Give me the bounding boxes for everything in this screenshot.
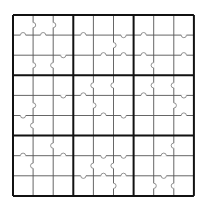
border-mark-icon xyxy=(121,53,126,56)
border-mark-icon xyxy=(114,43,117,48)
cell-r8c9[interactable] xyxy=(174,156,194,176)
border-mark-icon xyxy=(154,183,157,188)
border-mark-icon xyxy=(171,143,174,148)
cell-r4c9[interactable] xyxy=(174,75,194,95)
cell-r5c8[interactable] xyxy=(154,95,174,115)
cell-r7c7[interactable] xyxy=(134,136,154,156)
cell-r6c2[interactable] xyxy=(33,116,53,136)
cell-r1c3[interactable] xyxy=(53,15,73,35)
cell-r5c6[interactable] xyxy=(114,95,134,115)
cell-r9c8[interactable] xyxy=(154,176,174,196)
border-mark-icon xyxy=(161,153,166,156)
cell-r8c2[interactable] xyxy=(33,156,53,176)
border-mark-icon xyxy=(81,33,86,36)
cell-r6c1[interactable] xyxy=(13,116,33,136)
cell-r1c5[interactable] xyxy=(93,15,113,35)
cell-r2c9[interactable] xyxy=(174,35,194,55)
cell-r5c1[interactable] xyxy=(13,95,33,115)
border-mark-icon xyxy=(101,53,106,56)
cell-r1c9[interactable] xyxy=(174,15,194,35)
cell-r7c5[interactable] xyxy=(93,136,113,156)
cell-r7c1[interactable] xyxy=(13,136,33,156)
cell-r6c8[interactable] xyxy=(154,116,174,136)
cell-r2c5[interactable] xyxy=(93,35,113,55)
cell-r4c6[interactable] xyxy=(114,75,134,95)
cell-r2c7[interactable] xyxy=(134,35,154,55)
cell-r8c6[interactable] xyxy=(114,156,134,176)
cell-r5c9[interactable] xyxy=(174,95,194,115)
cell-r3c8[interactable] xyxy=(154,55,174,75)
cell-r3c6[interactable] xyxy=(114,55,134,75)
cell-r9c6[interactable] xyxy=(114,176,134,196)
cell-r3c2[interactable] xyxy=(33,55,53,75)
border-mark-icon xyxy=(51,63,54,68)
cell-r8c3[interactable] xyxy=(53,156,73,176)
cell-r1c2[interactable] xyxy=(33,15,53,35)
cell-r6c7[interactable] xyxy=(134,116,154,136)
border-mark-icon xyxy=(141,53,146,56)
cell-r8c4[interactable] xyxy=(73,156,93,176)
cell-r3c3[interactable] xyxy=(53,55,73,75)
border-mark-icon xyxy=(121,116,126,119)
border-mark-icon xyxy=(33,22,36,27)
cell-r9c4[interactable] xyxy=(73,176,93,196)
cell-r4c5[interactable] xyxy=(93,75,113,95)
cell-r1c1[interactable] xyxy=(13,15,33,35)
cell-r5c5[interactable] xyxy=(93,95,113,115)
cell-r5c2[interactable] xyxy=(33,95,53,115)
cell-r6c9[interactable] xyxy=(174,116,194,136)
cell-r8c1[interactable] xyxy=(13,156,33,176)
cell-r9c7[interactable] xyxy=(134,176,154,196)
cell-r3c5[interactable] xyxy=(93,55,113,75)
cell-r7c6[interactable] xyxy=(114,136,134,156)
cell-r7c9[interactable] xyxy=(174,136,194,156)
cell-r6c5[interactable] xyxy=(93,116,113,136)
cell-r9c2[interactable] xyxy=(33,176,53,196)
cell-r8c8[interactable] xyxy=(154,156,174,176)
cell-r1c7[interactable] xyxy=(134,15,154,35)
cell-r6c6[interactable] xyxy=(114,116,134,136)
cell-r4c4[interactable] xyxy=(73,75,93,95)
cell-r4c1[interactable] xyxy=(13,75,33,95)
cell-r9c9[interactable] xyxy=(174,176,194,196)
border-mark-icon xyxy=(30,163,33,168)
cell-r5c4[interactable] xyxy=(73,95,93,115)
cell-r3c1[interactable] xyxy=(13,55,33,75)
cell-r9c3[interactable] xyxy=(53,176,73,196)
cell-r3c7[interactable] xyxy=(134,55,154,75)
cell-r2c8[interactable] xyxy=(154,35,174,55)
border-mark-icon xyxy=(181,95,186,98)
cell-r4c7[interactable] xyxy=(134,75,154,95)
cell-r7c2[interactable] xyxy=(33,136,53,156)
cell-r2c1[interactable] xyxy=(13,35,33,55)
border-mark-icon xyxy=(121,173,126,176)
border-mark-icon xyxy=(81,176,86,179)
cell-r5c3[interactable] xyxy=(53,95,73,115)
cell-r2c2[interactable] xyxy=(33,35,53,55)
cell-r1c6[interactable] xyxy=(114,15,134,35)
cell-r4c2[interactable] xyxy=(33,75,53,95)
border-mark-icon xyxy=(121,35,126,38)
cell-r1c4[interactable] xyxy=(73,15,93,35)
cell-r2c6[interactable] xyxy=(114,35,134,55)
cell-r2c4[interactable] xyxy=(73,35,93,55)
cell-r9c5[interactable] xyxy=(93,176,113,196)
cell-r6c3[interactable] xyxy=(53,116,73,136)
cell-r7c3[interactable] xyxy=(53,136,73,156)
cell-r7c4[interactable] xyxy=(73,136,93,156)
cell-r2c3[interactable] xyxy=(53,35,73,55)
cell-r4c8[interactable] xyxy=(154,75,174,95)
cell-r9c1[interactable] xyxy=(13,176,33,196)
cell-r3c4[interactable] xyxy=(73,55,93,75)
cell-r8c7[interactable] xyxy=(134,156,154,176)
cell-r4c3[interactable] xyxy=(53,75,73,95)
border-mark-icon xyxy=(161,176,166,179)
cell-r7c8[interactable] xyxy=(154,136,174,156)
cell-r3c9[interactable] xyxy=(174,55,194,75)
cell-r5c7[interactable] xyxy=(134,95,154,115)
border-mark-icon xyxy=(61,55,66,58)
cell-r6c4[interactable] xyxy=(73,116,93,136)
cell-r8c5[interactable] xyxy=(93,156,113,176)
cell-r1c8[interactable] xyxy=(154,15,174,35)
border-mark-icon xyxy=(121,156,126,159)
